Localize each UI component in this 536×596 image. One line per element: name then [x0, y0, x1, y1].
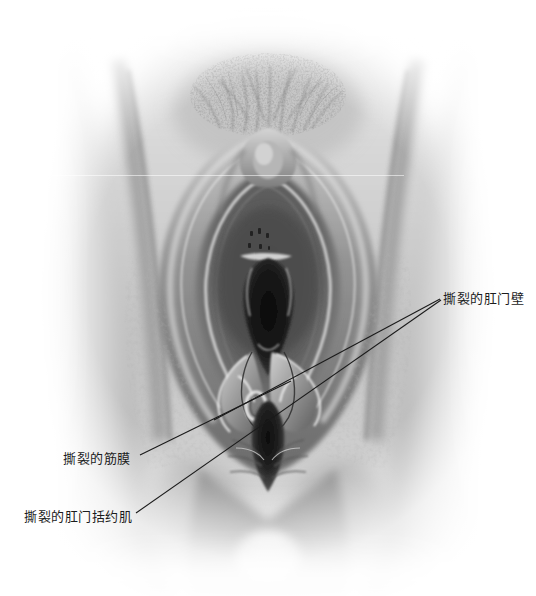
annotation-label-sphincter: 撕裂的肛门括约肌 [24, 509, 132, 524]
medical-illustration-figure: 撕裂的肛门壁 撕裂的筋膜 撕裂的肛门括约肌 [0, 0, 536, 596]
annotation-label-anal-wall: 撕裂的肛门壁 [443, 291, 524, 306]
annotation-label-fascia: 撕裂的筋膜 [63, 451, 131, 466]
